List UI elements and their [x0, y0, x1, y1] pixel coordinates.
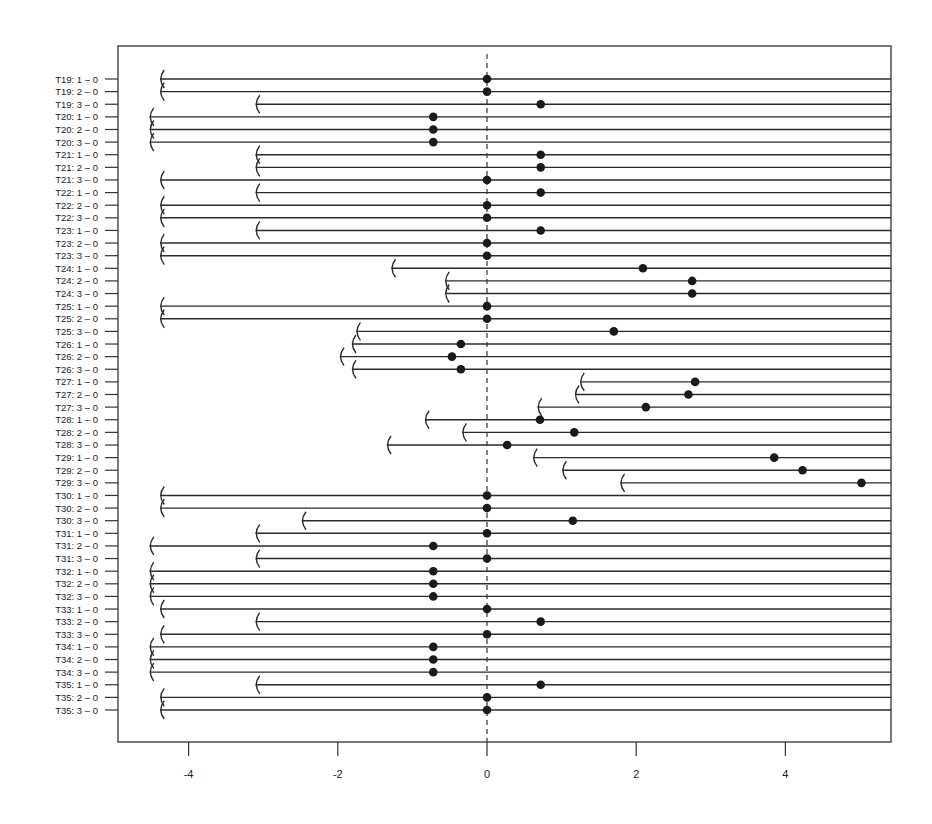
row-label: T19: 3 – 0: [55, 99, 98, 110]
point-estimate: [483, 605, 492, 614]
point-estimate: [536, 226, 545, 235]
row-label: T32: 2 – 0: [55, 578, 98, 589]
row-label: T25: 3 – 0: [55, 326, 98, 337]
row-label: T30: 2 – 0: [55, 503, 98, 514]
point-estimate: [536, 150, 545, 159]
point-estimate: [536, 188, 545, 197]
row-label: T21: 1 – 0: [55, 149, 98, 160]
x-axis: -4-2024: [184, 742, 789, 780]
row-label: T29: 1 – 0: [55, 452, 98, 463]
point-estimate: [429, 668, 438, 677]
point-estimate: [568, 516, 577, 525]
point-estimate: [610, 327, 619, 336]
x-tick-label: 2: [633, 768, 639, 780]
row-label: T21: 3 – 0: [55, 174, 98, 185]
point-estimate: [483, 554, 492, 563]
row-label: T28: 2 – 0: [55, 427, 98, 438]
row-label: T22: 2 – 0: [55, 200, 98, 211]
row-label: T22: 1 – 0: [55, 187, 98, 198]
row-label: T22: 3 – 0: [55, 212, 98, 223]
row-label: T31: 2 – 0: [55, 540, 98, 551]
row-label: T30: 1 – 0: [55, 490, 98, 501]
point-estimate: [570, 428, 579, 437]
point-estimate: [483, 239, 492, 248]
row-label: T33: 1 – 0: [55, 604, 98, 615]
point-estimate: [503, 441, 512, 450]
point-estimate: [483, 693, 492, 702]
row-label: T20: 2 – 0: [55, 124, 98, 135]
row-label: T23: 3 – 0: [55, 250, 98, 261]
point-estimate: [429, 138, 438, 147]
point-estimate: [483, 75, 492, 84]
x-tick-label: 4: [782, 768, 788, 780]
row-label: T20: 3 – 0: [55, 137, 98, 148]
point-estimate: [457, 340, 466, 349]
row-label: T30: 3 – 0: [55, 515, 98, 526]
point-estimate: [429, 542, 438, 551]
point-estimate: [483, 251, 492, 260]
point-estimate: [429, 580, 438, 589]
forest-plot: T19: 1 – 0T19: 2 – 0T19: 3 – 0T20: 1 – 0…: [0, 0, 932, 824]
point-estimate: [483, 87, 492, 96]
x-tick-label: -2: [333, 768, 343, 780]
point-estimate: [691, 378, 700, 387]
row-label: T26: 3 – 0: [55, 364, 98, 375]
row-label: T35: 1 – 0: [55, 679, 98, 690]
point-estimate: [798, 466, 807, 475]
row-label: T32: 1 – 0: [55, 566, 98, 577]
point-estimate: [684, 390, 693, 399]
row-label: T25: 2 – 0: [55, 313, 98, 324]
row-label: T32: 3 – 0: [55, 591, 98, 602]
row-label: T33: 2 – 0: [55, 616, 98, 627]
point-estimate: [483, 529, 492, 538]
point-estimate: [429, 655, 438, 664]
point-estimate: [688, 289, 697, 298]
point-estimate: [688, 277, 697, 286]
point-estimate: [429, 125, 438, 134]
point-estimate: [536, 680, 545, 689]
row-label: T29: 3 – 0: [55, 477, 98, 488]
point-estimate: [857, 479, 866, 488]
row-label: T27: 2 – 0: [55, 389, 98, 400]
point-estimate: [429, 643, 438, 652]
point-estimate: [483, 504, 492, 513]
row-label: T35: 2 – 0: [55, 692, 98, 703]
point-estimate: [483, 706, 492, 715]
row-label: T29: 2 – 0: [55, 465, 98, 476]
point-estimate: [483, 314, 492, 323]
row-label: T20: 1 – 0: [55, 111, 98, 122]
interval-lines: [150, 70, 891, 719]
row-label: T31: 3 – 0: [55, 553, 98, 564]
row-label: T34: 2 – 0: [55, 654, 98, 665]
y-axis-labels: T19: 1 – 0T19: 2 – 0T19: 3 – 0T20: 1 – 0…: [55, 74, 118, 716]
point-estimate: [429, 567, 438, 576]
row-label: T33: 3 – 0: [55, 629, 98, 640]
row-label: T25: 1 – 0: [55, 301, 98, 312]
point-estimate: [429, 592, 438, 601]
point-estimate: [448, 352, 457, 361]
x-tick-label: 0: [484, 768, 490, 780]
point-estimate: [457, 365, 466, 374]
point-estimate: [639, 264, 648, 273]
point-estimate: [642, 403, 651, 412]
point-estimate: [536, 163, 545, 172]
row-label: T28: 3 – 0: [55, 439, 98, 450]
point-estimate: [483, 491, 492, 500]
row-label: T34: 3 – 0: [55, 667, 98, 678]
point-estimate: [483, 214, 492, 223]
row-label: T21: 2 – 0: [55, 162, 98, 173]
row-label: T26: 1 – 0: [55, 339, 98, 350]
point-estimate: [536, 415, 545, 424]
row-label: T24: 1 – 0: [55, 263, 98, 274]
point-estimate: [483, 201, 492, 210]
point-estimate: [536, 100, 545, 109]
point-estimate: [536, 617, 545, 626]
point-estimate: [483, 302, 492, 311]
row-label: T24: 3 – 0: [55, 288, 98, 299]
row-label: T27: 1 – 0: [55, 376, 98, 387]
row-label: T35: 3 – 0: [55, 705, 98, 716]
x-tick-label: -4: [184, 768, 194, 780]
row-label: T19: 2 – 0: [55, 86, 98, 97]
point-estimate: [483, 176, 492, 185]
row-label: T23: 1 – 0: [55, 225, 98, 236]
